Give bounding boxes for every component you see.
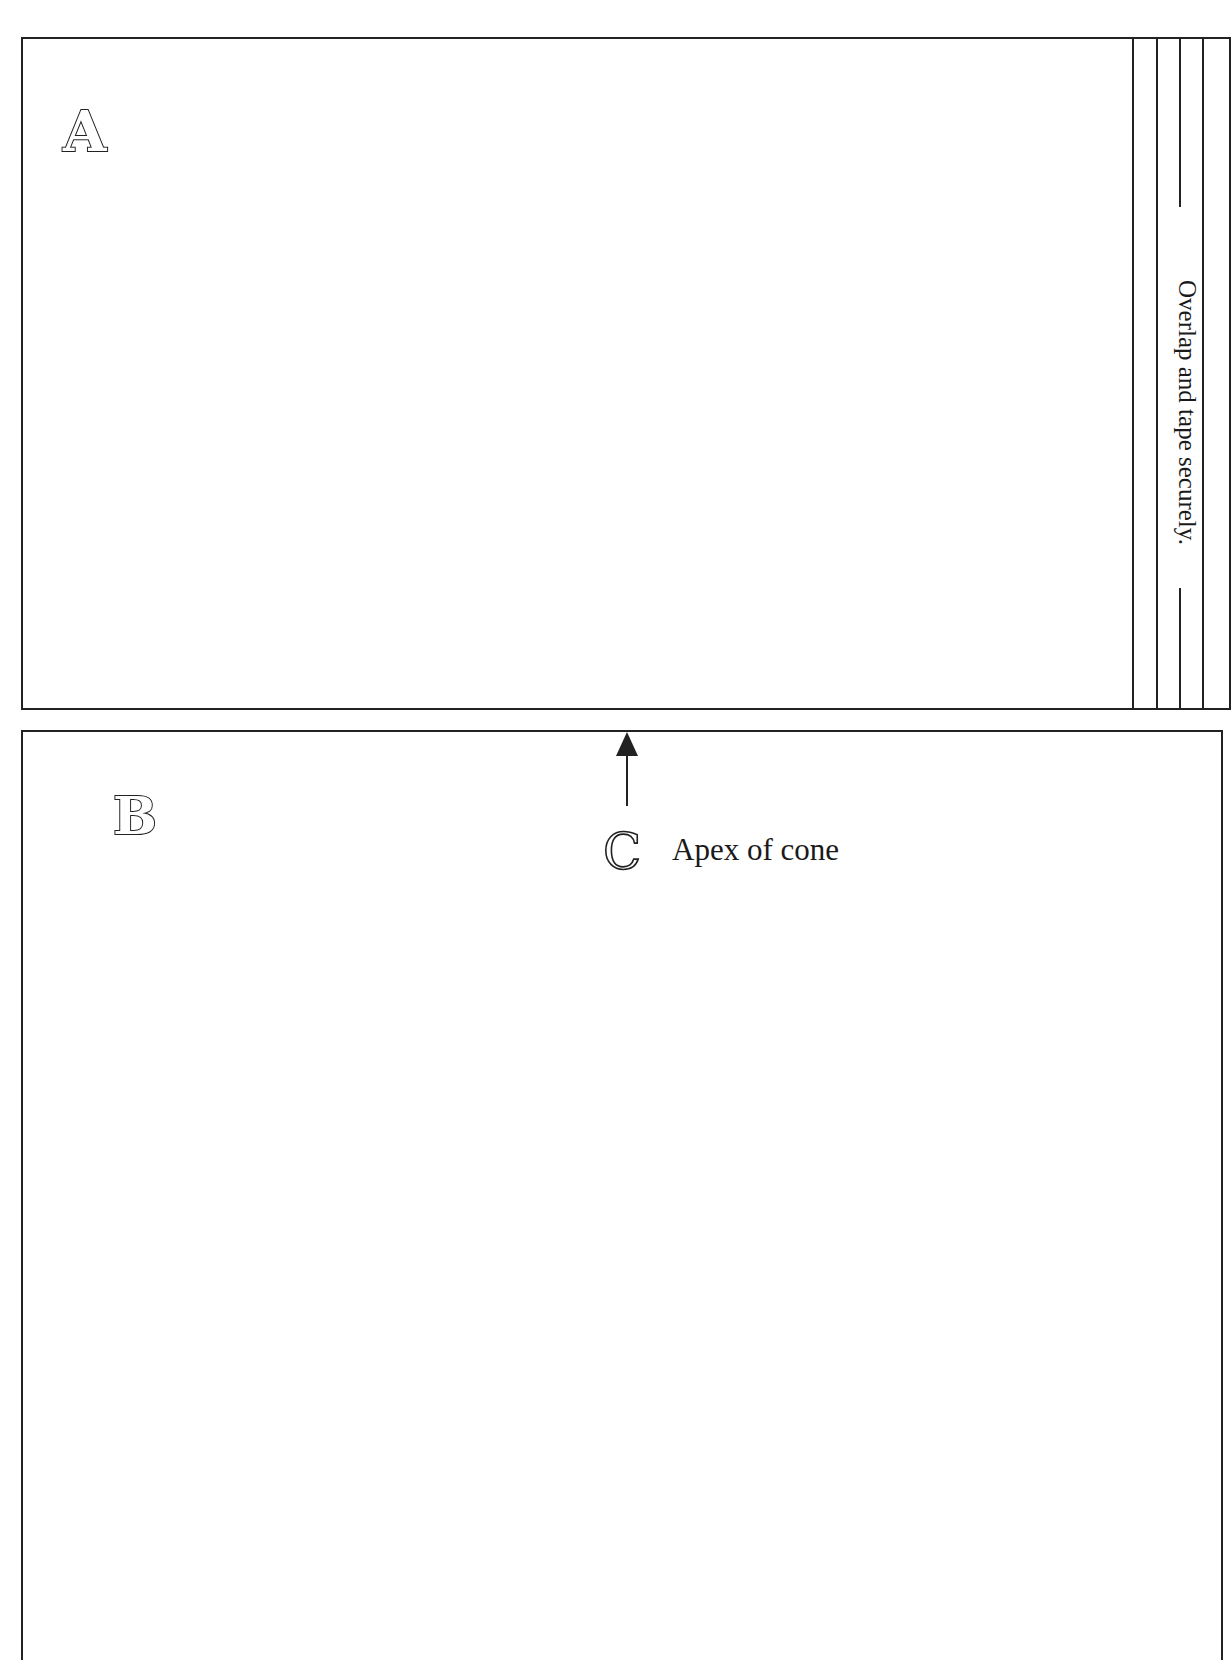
overlap-strip-line-3-top <box>1179 37 1181 207</box>
panel-a: A <box>21 37 1231 710</box>
panel-b-label: B <box>113 790 157 842</box>
overlap-strip-line-2 <box>1156 37 1158 710</box>
overlap-instruction: Overlap and tape securely. <box>1168 228 1206 596</box>
overlap-instruction-text: Overlap and tape securely. <box>1173 280 1201 545</box>
marker-c-label: C <box>603 827 641 877</box>
apex-caption: Apex of cone <box>672 832 839 868</box>
overlap-strip-line-1 <box>1132 37 1134 710</box>
cropped-title <box>22 0 522 4</box>
panel-a-label: A <box>63 103 106 159</box>
overlap-strip-line-3-bottom <box>1179 588 1181 710</box>
arrow-shaft <box>626 752 628 806</box>
